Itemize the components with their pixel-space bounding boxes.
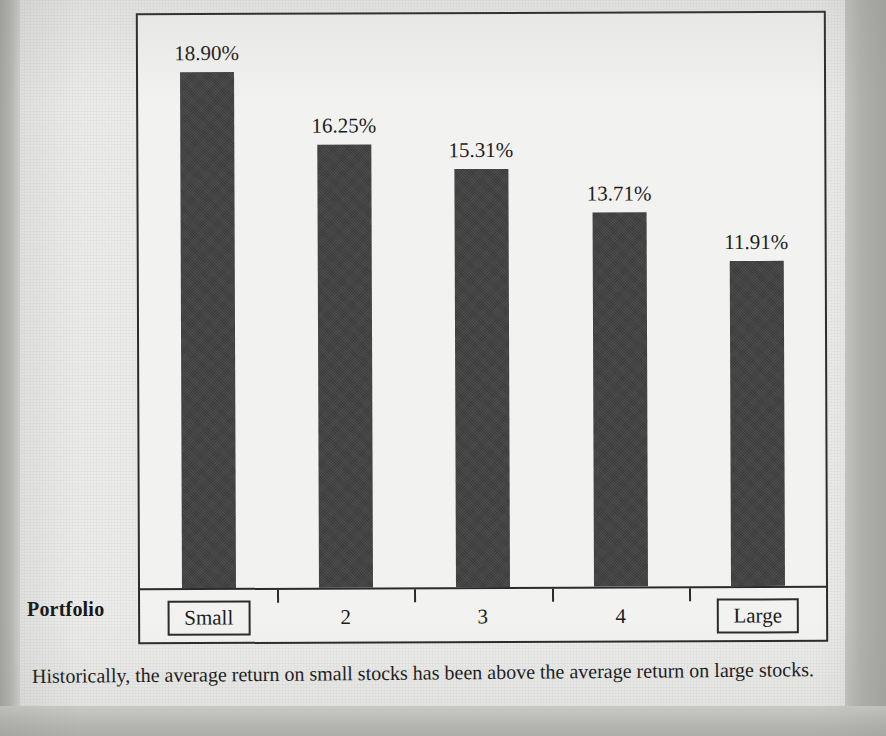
- axis-title-portfolio: Portfolio: [27, 598, 104, 621]
- bar-value-label: 16.25%: [311, 113, 376, 138]
- plot-area: 18.90%16.25%15.31%13.71%11.91%: [138, 13, 826, 589]
- page-edge-bottom: [0, 706, 886, 736]
- bar-group: 13.71%: [550, 13, 689, 587]
- bar: [317, 144, 373, 587]
- bar-group: 18.90%: [138, 15, 277, 589]
- bar: [454, 169, 510, 587]
- axis-tick: [552, 589, 554, 602]
- axis-tick: [414, 589, 416, 602]
- bar: [592, 212, 647, 586]
- bar-series: 18.90%16.25%15.31%13.71%11.91%: [138, 13, 826, 589]
- category-label-3: 3: [473, 602, 492, 631]
- category-label-large: Large: [716, 598, 799, 633]
- bar: [729, 261, 784, 586]
- axis-tick: [277, 590, 279, 603]
- category-label-small: Small: [167, 600, 250, 635]
- category-axis-slot: 4: [552, 588, 689, 645]
- category-label-4: 4: [611, 602, 630, 631]
- category-axis-slot: Large: [689, 588, 826, 645]
- bar-group: 11.91%: [687, 13, 826, 587]
- bar-value-label: 18.90%: [174, 41, 239, 66]
- category-axis-slot: 2: [277, 589, 414, 646]
- bar-value-label: 13.71%: [587, 181, 652, 206]
- bar-group: 15.31%: [412, 14, 551, 588]
- bar-value-label: 11.91%: [724, 230, 788, 255]
- bar-value-label: 15.31%: [448, 138, 513, 163]
- axis-tick: [689, 588, 691, 601]
- bar-group: 16.25%: [275, 14, 414, 588]
- bar: [180, 72, 236, 588]
- category-axis-slot: Small: [140, 590, 277, 647]
- bar-chart: 18.90%16.25%15.31%13.71%11.91% Small234L…: [136, 11, 828, 645]
- page-edge-left: [0, 0, 20, 736]
- page-edge-right: [845, 0, 886, 736]
- category-axis-slot: 3: [414, 589, 551, 646]
- category-label-2: 2: [336, 603, 355, 632]
- category-axis: Small234Large: [140, 586, 826, 647]
- scanned-page: 18.90%16.25%15.31%13.71%11.91% Small234L…: [0, 0, 886, 736]
